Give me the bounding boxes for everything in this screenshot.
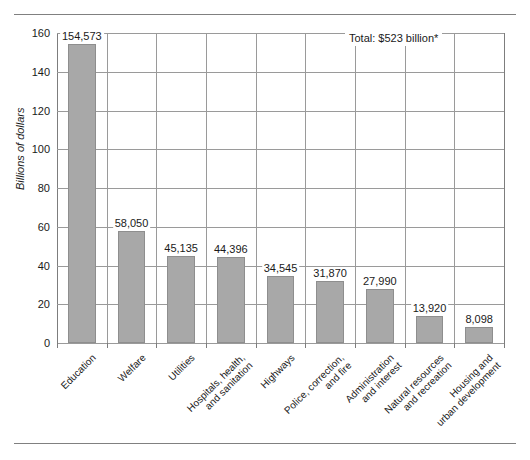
gridline-y [57,111,504,112]
gridline-x [256,33,257,343]
bar-value-label: 154,573 [60,30,104,42]
gridline-y [57,72,504,73]
gridline-x [107,33,108,343]
x-tick-mark [206,343,207,348]
bar-value-label: 27,990 [361,275,399,287]
x-tick-mark [305,343,306,348]
bar-value-label: 58,050 [113,217,151,229]
gridline-x [305,33,306,343]
y-tick-label: 120 [32,105,50,117]
bar[interactable] [316,281,344,343]
gridline-x [206,33,207,343]
plot-area: 020406080100120140160 154,57358,05045,13… [57,33,504,343]
bar-value-label: 45,135 [162,242,200,254]
bar[interactable] [118,231,146,343]
figure-top-rule [14,14,516,15]
bar-value-label: 8,098 [463,313,495,325]
gridline-x [355,33,356,343]
x-tick-mark [355,343,356,348]
bar[interactable] [68,44,96,343]
y-tick-label: 0 [44,337,50,349]
y-axis-title: Billions of dollars [14,107,26,190]
chart-figure: Billions of dollars 02040608010012014016… [0,0,530,460]
y-tick-label: 40 [38,260,50,272]
bar-value-label: 31,870 [311,267,349,279]
plot-right-border [504,33,505,343]
bar[interactable] [416,316,444,343]
y-tick-label: 20 [38,298,50,310]
gridline-y [57,188,504,189]
bar-value-label: 44,396 [212,243,250,255]
gridline-y [57,149,504,150]
x-tick-mark [454,343,455,348]
bar[interactable] [167,256,195,343]
y-tick-label: 140 [32,66,50,78]
y-tick-label: 60 [38,221,50,233]
y-tick-label: 80 [38,182,50,194]
bar[interactable] [366,289,394,343]
gridline-x [156,33,157,343]
bar-value-label: 13,920 [411,302,449,314]
x-tick-mark [156,343,157,348]
gridline-x [405,33,406,343]
x-tick-mark [57,343,58,348]
y-tick-label: 100 [32,143,50,155]
gridline-x [454,33,455,343]
y-tick-label: 160 [32,27,50,39]
gridline-y [57,343,504,344]
x-tick-mark [504,343,505,348]
bar-value-label: 34,545 [262,262,300,274]
x-tick-mark [256,343,257,348]
x-tick-mark [107,343,108,348]
x-tick-mark [405,343,406,348]
bar[interactable] [217,257,245,343]
bar[interactable] [267,276,295,343]
total-annotation: Total: $523 billion* [345,30,442,46]
bar[interactable] [465,327,493,343]
